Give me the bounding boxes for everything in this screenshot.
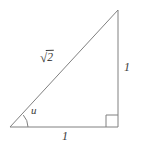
- right-angle-marker: [106, 115, 118, 127]
- base-label: 1: [62, 130, 68, 142]
- angle-label: u: [31, 105, 37, 116]
- radicand-value: 2: [46, 50, 54, 63]
- hypotenuse-line: [10, 10, 118, 127]
- radical-expression: √2: [40, 50, 55, 64]
- hypotenuse-label: √2: [40, 50, 55, 64]
- angle-arc-marker: [23, 115, 28, 127]
- triangle-figure: √2 1 1 u: [0, 0, 145, 145]
- vertical-leg-label: 1: [124, 61, 130, 73]
